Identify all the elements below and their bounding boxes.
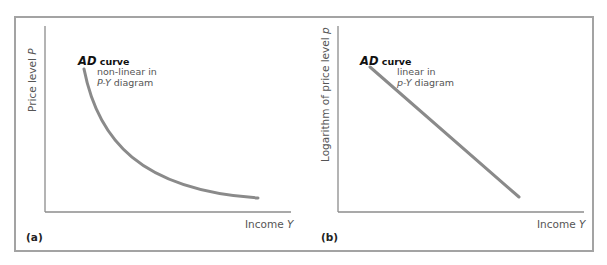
panel-a-x-axis-var: Y [287, 218, 293, 230]
panel-b-x-axis-text: Income [537, 218, 579, 230]
panel-b-x-axis-var: Y [579, 218, 585, 230]
panel-a-y-axis-text: Price level [26, 55, 38, 112]
panel-b-y-axis-label: Logarithm of price level p [319, 27, 331, 162]
panel-a-y-axis-label: Price level P [26, 48, 38, 112]
panel-b-note-rest: diagram [412, 77, 455, 88]
panel-b-note-var: p-Y [397, 77, 412, 88]
panel-b-curve-name: AD [360, 54, 378, 68]
panel-b-x-axis-label: Income Y [537, 218, 585, 230]
panel-a-y-axis-var: P [26, 48, 38, 54]
panel-b-y-axis-text: Logarithm of price level [319, 34, 331, 162]
panel-b-note-line2: p-Y diagram [397, 77, 454, 88]
panel-a-note-line2: P-Y diagram [97, 77, 157, 88]
panel-a-note-rest: diagram [111, 77, 154, 88]
panel-a-x-axis-label: Income Y [245, 218, 293, 230]
panel-a-curve-name: AD [78, 54, 96, 68]
panel-a-tag: (a) [26, 231, 43, 243]
panel-a-note-var: P-Y [97, 77, 111, 88]
diagram-canvas [0, 0, 607, 265]
panel-b-curve-note: linear in p-Y diagram [397, 66, 454, 88]
panel-b-note-line1: linear in [397, 66, 454, 77]
panel-a-note-line1: non-linear in [97, 66, 157, 77]
panel-a-ad-curve [84, 69, 258, 198]
panel-b-y-axis-var: p [319, 27, 331, 34]
panel-a-curve-note: non-linear in P-Y diagram [97, 66, 157, 88]
panel-b-tag: (b) [321, 231, 338, 243]
panel-a-x-axis-text: Income [245, 218, 287, 230]
